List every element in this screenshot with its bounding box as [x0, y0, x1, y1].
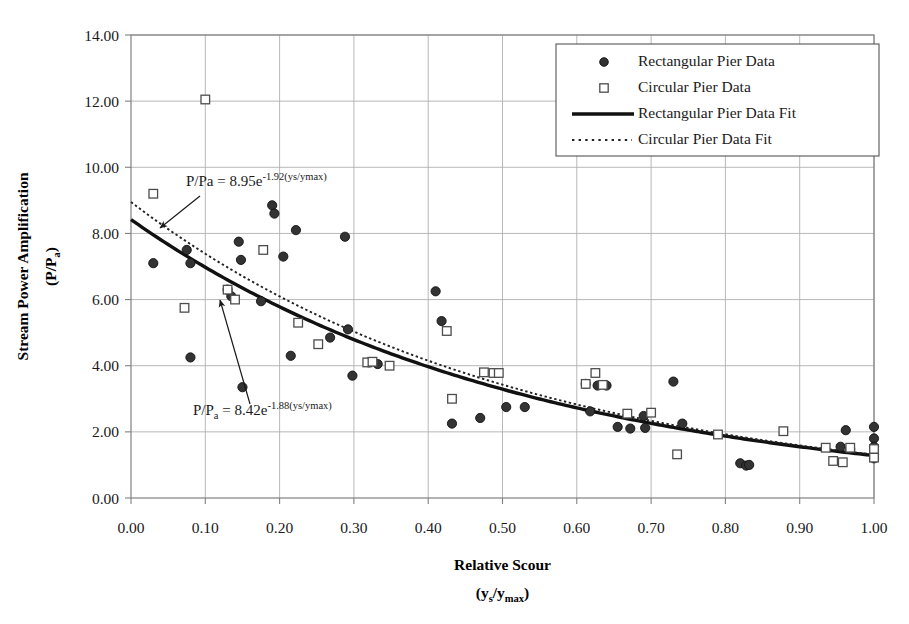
data-point-rectangular — [268, 201, 277, 210]
y-tick-label: 10.00 — [84, 159, 119, 176]
data-point-rectangular — [836, 442, 845, 451]
data-point-rectangular — [678, 419, 687, 428]
data-point-rectangular — [745, 460, 754, 469]
data-point-circular — [870, 453, 879, 462]
data-point-circular — [647, 408, 656, 417]
data-point-circular — [821, 443, 830, 452]
data-point-rectangular — [286, 351, 295, 360]
chart-canvas: 0.000.100.200.300.400.500.600.700.800.90… — [0, 0, 909, 624]
data-point-rectangular — [669, 377, 678, 386]
data-point-circular — [779, 427, 788, 436]
chart-legend: Rectangular Pier DataCircular Pier DataR… — [556, 44, 879, 156]
x-tick-label: 0.10 — [192, 519, 219, 536]
y-tick-label: 4.00 — [92, 357, 119, 374]
data-point-rectangular — [291, 226, 300, 235]
x-tick-label: 0.00 — [117, 519, 144, 536]
data-point-rectangular — [186, 259, 195, 268]
legend-marker-open-square — [600, 84, 608, 92]
y-tick-label: 8.00 — [92, 225, 119, 242]
data-point-rectangular — [279, 252, 288, 261]
data-point-circular — [314, 340, 323, 349]
data-point-circular — [448, 394, 457, 403]
data-point-rectangular — [520, 402, 529, 411]
data-point-circular — [231, 295, 240, 304]
data-point-rectangular — [348, 371, 357, 380]
y-tick-label: 6.00 — [92, 291, 119, 308]
data-point-circular — [581, 380, 590, 389]
data-point-rectangular — [186, 353, 195, 362]
data-point-rectangular — [256, 297, 265, 306]
data-point-circular — [846, 443, 855, 452]
data-point-rectangular — [234, 237, 243, 246]
x-tick-label: 0.40 — [415, 519, 442, 536]
data-point-circular — [494, 369, 503, 378]
data-point-circular — [673, 450, 682, 459]
y-tick-label: 14.00 — [84, 27, 119, 44]
scatter-chart-figure: 0.000.100.200.300.400.500.600.700.800.90… — [0, 0, 909, 624]
data-point-circular — [201, 95, 210, 104]
y-tick-label: 0.00 — [92, 490, 119, 507]
data-point-rectangular — [586, 407, 595, 416]
data-point-circular — [623, 409, 632, 418]
data-point-circular — [838, 458, 847, 467]
x-tick-label: 0.20 — [266, 519, 293, 536]
y-tick-label: 2.00 — [92, 423, 119, 440]
x-tick-label: 0.70 — [638, 519, 665, 536]
data-point-rectangular — [447, 419, 456, 428]
data-point-circular — [180, 304, 189, 313]
data-point-rectangular — [270, 209, 279, 218]
data-point-rectangular — [437, 316, 446, 325]
x-axis-title: Relative Scour — [454, 556, 551, 573]
data-point-circular — [223, 285, 232, 294]
data-point-rectangular — [343, 325, 352, 334]
data-point-circular — [480, 368, 489, 377]
legend-label: Rectangular Pier Data Fit — [638, 104, 797, 121]
data-point-rectangular — [476, 413, 485, 422]
data-point-rectangular — [841, 426, 850, 435]
data-point-circular — [714, 430, 723, 439]
data-point-circular — [870, 445, 879, 454]
data-point-rectangular — [182, 245, 191, 254]
x-tick-label: 1.00 — [860, 519, 887, 536]
data-point-circular — [149, 189, 158, 198]
data-point-rectangular — [641, 423, 650, 432]
data-point-rectangular — [340, 232, 349, 241]
data-point-circular — [591, 369, 600, 378]
data-point-circular — [259, 246, 268, 255]
y-tick-label: 12.00 — [84, 93, 119, 110]
data-point-circular — [368, 357, 377, 366]
data-point-rectangular — [502, 402, 511, 411]
x-tick-label: 0.30 — [340, 519, 367, 536]
data-point-rectangular — [326, 333, 335, 342]
data-point-circular — [385, 361, 394, 370]
data-point-circular — [599, 381, 608, 390]
legend-marker-filled-circle — [600, 58, 609, 67]
data-point-rectangular — [626, 424, 635, 433]
x-tick-label: 0.90 — [786, 519, 813, 536]
y-axis-subtitle: (P/Pa) — [42, 247, 62, 286]
legend-label: Circular Pier Data Fit — [638, 130, 773, 147]
x-tick-label: 0.60 — [563, 519, 590, 536]
data-point-circular — [829, 457, 838, 466]
y-axis-title: Stream Power Amplification — [14, 172, 31, 360]
data-point-circular — [442, 327, 451, 336]
data-point-rectangular — [431, 287, 440, 296]
data-point-circular — [294, 318, 303, 327]
data-point-rectangular — [236, 255, 245, 264]
data-point-rectangular — [149, 259, 158, 268]
legend-label: Circular Pier Data — [638, 78, 751, 95]
data-point-rectangular — [613, 422, 622, 431]
x-tick-label: 0.80 — [712, 519, 739, 536]
data-point-rectangular — [869, 422, 878, 431]
legend-label: Rectangular Pier Data — [638, 52, 775, 69]
x-tick-label: 0.50 — [489, 519, 516, 536]
